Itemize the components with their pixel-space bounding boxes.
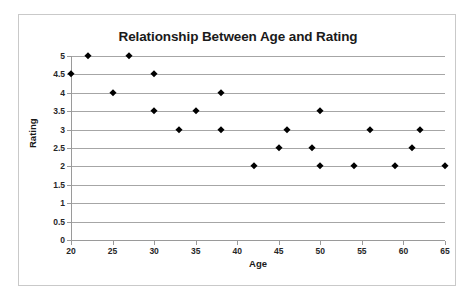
- x-axis-tick-label: 30: [149, 246, 158, 256]
- data-point: [109, 89, 117, 97]
- data-point: [283, 126, 291, 134]
- x-axis-tick: [237, 241, 238, 245]
- y-axis-tick-label: 1.5: [53, 180, 65, 190]
- x-axis-tick-label: 25: [108, 246, 117, 256]
- data-point: [250, 163, 258, 171]
- data-point: [391, 163, 399, 171]
- gridline: [71, 203, 445, 204]
- gridline: [71, 74, 445, 75]
- x-axis-tick: [71, 241, 72, 245]
- x-axis-tick: [279, 241, 280, 245]
- data-point: [366, 126, 374, 134]
- x-axis-title: Age: [71, 258, 445, 269]
- x-axis-tick: [154, 241, 155, 245]
- y-axis-tick-label: 4: [60, 88, 65, 98]
- y-axis-line: [71, 56, 72, 241]
- chart-container: Relationship Between Age and Rating Rati…: [18, 14, 456, 286]
- y-axis-tick-label: 3.5: [53, 106, 65, 116]
- data-point: [67, 71, 75, 79]
- data-point: [416, 126, 424, 134]
- data-point: [317, 107, 325, 115]
- x-axis-tick: [196, 241, 197, 245]
- plot-area: 00.511.522.533.544.55 202530354045505560…: [71, 56, 445, 240]
- y-axis-tick-label: 1: [60, 198, 65, 208]
- y-axis-tick-label: 2.5: [53, 143, 65, 153]
- gridline: [71, 148, 445, 149]
- x-axis-tick: [362, 241, 363, 245]
- y-axis-tick-label: 3: [60, 125, 65, 135]
- data-point: [125, 52, 133, 60]
- gridline: [71, 93, 445, 94]
- chart-title: Relationship Between Age and Rating: [19, 29, 457, 44]
- data-point: [175, 126, 183, 134]
- y-axis-tick-label: 4.5: [53, 69, 65, 79]
- data-point: [217, 126, 225, 134]
- data-point: [317, 163, 325, 171]
- data-point: [84, 52, 92, 60]
- data-point: [275, 144, 283, 152]
- x-axis-tick-label: 65: [440, 246, 449, 256]
- x-axis-tick-label: 20: [66, 246, 75, 256]
- gridline: [71, 166, 445, 167]
- x-axis-tick-label: 50: [316, 246, 325, 256]
- gridline: [71, 111, 445, 112]
- gridline: [71, 130, 445, 131]
- data-point: [308, 144, 316, 152]
- screenshot-root: Relationship Between Age and Rating Rati…: [0, 0, 476, 303]
- x-axis-tick-label: 60: [399, 246, 408, 256]
- y-axis-tick-label: 0.5: [53, 217, 65, 227]
- y-axis-tick-label: 2: [60, 161, 65, 171]
- y-axis-tick-label: 0: [60, 235, 65, 245]
- data-point: [441, 163, 449, 171]
- data-point: [150, 107, 158, 115]
- x-axis-tick-label: 55: [357, 246, 366, 256]
- x-axis-line: [71, 240, 445, 241]
- data-point: [408, 144, 416, 152]
- data-point: [217, 89, 225, 97]
- x-axis-tick-label: 40: [232, 246, 241, 256]
- x-axis-tick: [320, 241, 321, 245]
- x-axis-tick-label: 45: [274, 246, 283, 256]
- data-point: [350, 163, 358, 171]
- x-axis-tick: [113, 241, 114, 245]
- y-axis-tick-label: 5: [60, 51, 65, 61]
- gridline: [71, 185, 445, 186]
- y-axis-title: Rating: [27, 118, 38, 148]
- gridline: [71, 222, 445, 223]
- x-axis-tick-label: 35: [191, 246, 200, 256]
- data-point: [192, 107, 200, 115]
- x-axis-tick: [403, 241, 404, 245]
- data-point: [150, 71, 158, 79]
- x-axis-tick: [445, 241, 446, 245]
